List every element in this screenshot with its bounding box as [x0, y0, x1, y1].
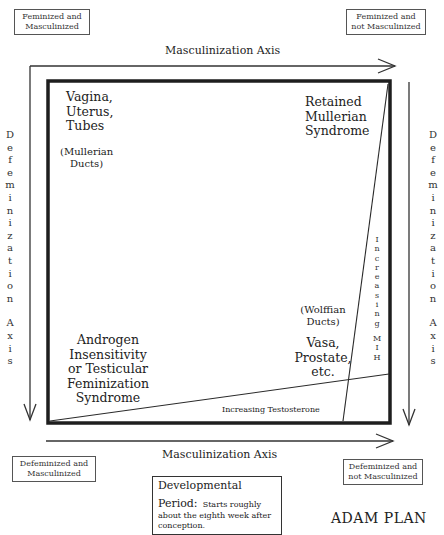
- axis-letter: n: [4, 293, 16, 306]
- region-line: Ducts): [60, 158, 113, 170]
- region-wolffian-structures: Vasa, Prostate, etc.: [285, 336, 361, 380]
- axis-letter: n: [427, 293, 439, 306]
- axis-letter: e: [4, 167, 16, 180]
- testosterone-gradient-label: Increasing Testosterone: [222, 405, 320, 414]
- axis-letter: D: [427, 129, 439, 142]
- region-line: Syndrome: [58, 391, 158, 406]
- mih-letter: s: [372, 291, 382, 300]
- region-line: Mullerian: [305, 110, 369, 125]
- region-mullerian-structures: Vagina, Uterus, Tubes: [66, 90, 113, 134]
- region-androgen-insensitivity: Androgen Insensitivity or Testicular Fem…: [58, 333, 158, 406]
- region-line: Retained: [305, 95, 369, 110]
- axis-letter: t: [4, 255, 16, 268]
- corner-label-defeminized-masculinized: Defeminized and Masculinized: [12, 456, 96, 482]
- axis-letter: f: [4, 154, 16, 167]
- axis-letter: i: [427, 217, 439, 230]
- axis-letter: a: [4, 242, 16, 255]
- axis-letter: x: [427, 330, 439, 343]
- region-mullerian-ducts-note: (Mullerian Ducts): [60, 146, 113, 170]
- corner-label-line: Feminized and: [350, 12, 422, 22]
- developmental-period-box: Developmental Period: Starts roughly abo…: [152, 476, 282, 535]
- mih-letter: n: [372, 244, 382, 253]
- mih-letter: c: [372, 254, 382, 263]
- axis-letter: s: [427, 355, 439, 368]
- axis-letter: z: [4, 230, 16, 243]
- mih-letter: r: [372, 263, 382, 272]
- region-line: Syndrome: [305, 124, 369, 139]
- corner-label-line: Defeminized and: [16, 459, 92, 469]
- region-line: Vasa,: [285, 336, 361, 351]
- top-axis-arrow: [30, 59, 395, 73]
- axis-letter: A: [4, 317, 16, 330]
- region-line: Ducts): [291, 316, 355, 328]
- axis-letter: A: [427, 317, 439, 330]
- region-line: Uterus,: [66, 105, 113, 120]
- bottom-axis-arrow: [46, 434, 393, 448]
- axis-letter: n: [427, 205, 439, 218]
- right-axis-arrow: [403, 82, 415, 425]
- corner-label-line: Masculinized: [16, 469, 92, 479]
- mih-letter: n: [372, 309, 382, 318]
- axis-letter: e: [427, 167, 439, 180]
- axis-letter: i: [4, 268, 16, 281]
- mih-letter: g: [372, 319, 382, 328]
- mih-letter: I: [372, 235, 382, 244]
- axis-letter: n: [4, 205, 16, 218]
- axis-letter: o: [427, 280, 439, 293]
- right-axis-label: D e f e m i n i z a t i o n A x i s: [427, 129, 439, 368]
- axis-letter: o: [4, 280, 16, 293]
- axis-letter: t: [427, 255, 439, 268]
- region-line: Feminization: [58, 377, 158, 392]
- axis-letter: D: [4, 129, 16, 142]
- left-axis-arrow: [24, 66, 36, 420]
- region-line: Prostate,: [285, 351, 361, 366]
- mih-letter: H: [372, 353, 382, 362]
- mih-gradient-label: I n c r e a s i n g M I H: [372, 235, 382, 362]
- axis-letter: z: [427, 230, 439, 243]
- axis-letter: i: [427, 343, 439, 356]
- axis-letter: i: [4, 217, 16, 230]
- axis-letter: m: [4, 179, 16, 192]
- region-line: or Testicular: [58, 362, 158, 377]
- axis-letter: i: [427, 268, 439, 281]
- region-wolffian-ducts-note: (Wolffian Ducts): [291, 304, 355, 328]
- plan-title: ADAM PLAN: [331, 510, 427, 526]
- axis-letter: f: [427, 154, 439, 167]
- region-line: (Wolffian: [291, 304, 355, 316]
- corner-label-feminized-masculinized: Feminized and Masculinized: [14, 9, 90, 35]
- corner-label-line: Masculinized: [18, 22, 86, 32]
- region-retained-mullerian-syndrome: Retained Mullerian Syndrome: [305, 95, 369, 139]
- axis-letter: i: [427, 192, 439, 205]
- mih-letter: e: [372, 272, 382, 281]
- top-axis-label: Masculinization Axis: [165, 44, 280, 57]
- mih-letter: a: [372, 281, 382, 290]
- region-line: (Mullerian: [60, 146, 113, 158]
- axis-letter-gap: [4, 305, 16, 317]
- axis-letter: e: [4, 142, 16, 155]
- mih-letter: M: [372, 334, 382, 343]
- region-line: Androgen: [58, 333, 158, 348]
- mih-letter: I: [372, 343, 382, 352]
- corner-label-line: not Masculinized: [350, 22, 422, 32]
- corner-label-line: Feminized and: [18, 12, 86, 22]
- mih-letter: i: [372, 300, 382, 309]
- corner-label-defeminized-not-masculinized: Defeminized and not Masculinized: [343, 459, 423, 485]
- period-text-inline: Starts roughly: [203, 500, 261, 509]
- axis-letter: m: [427, 179, 439, 192]
- period-heading: Developmental: [158, 480, 276, 492]
- period-text-rest: about the eighth week after conception.: [158, 511, 276, 531]
- axis-letter-gap: [427, 305, 439, 317]
- corner-label-line: not Masculinized: [347, 472, 419, 482]
- region-line: etc.: [285, 365, 361, 380]
- corner-label-line: Defeminized and: [347, 462, 419, 472]
- axis-letter: i: [4, 343, 16, 356]
- axis-letter: x: [4, 330, 16, 343]
- axis-letter: a: [427, 242, 439, 255]
- corner-label-feminized-not-masculinized: Feminized and not Masculinized: [346, 9, 426, 35]
- region-line: Tubes: [66, 119, 113, 134]
- period-label: Period:: [158, 497, 198, 510]
- region-line: Insensitivity: [58, 348, 158, 363]
- axis-letter: e: [427, 142, 439, 155]
- bottom-axis-label: Masculinization Axis: [162, 448, 277, 461]
- axis-letter: s: [4, 355, 16, 368]
